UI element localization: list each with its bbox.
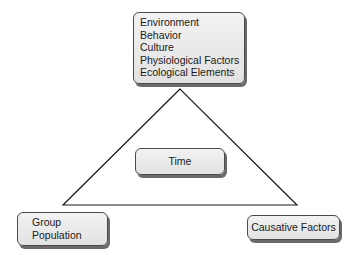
factor-ecological: Ecological Elements (140, 66, 244, 79)
factor-environment: Environment (140, 16, 244, 29)
causative-factors-label: Causative Factors (248, 221, 339, 234)
triangle-outline (63, 89, 297, 205)
environment-factors-box: Environment Behavior Culture Physiologic… (133, 12, 245, 84)
factor-behavior: Behavior (140, 29, 244, 42)
group-population-box: Group Population (17, 212, 108, 246)
population-label: Population (32, 229, 107, 242)
group-label: Group (32, 216, 107, 229)
time-label: Time (136, 155, 224, 168)
factor-physiological: Physiological Factors (140, 54, 244, 67)
time-box: Time (135, 148, 225, 175)
causative-factors-box: Causative Factors (247, 215, 340, 240)
factor-culture: Culture (140, 41, 244, 54)
